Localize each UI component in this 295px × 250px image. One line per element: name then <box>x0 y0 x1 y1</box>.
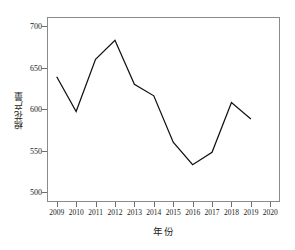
y-axis-tick-mark <box>42 26 47 27</box>
x-axis-tick-mark <box>270 202 271 207</box>
y-axis-tick-mark <box>42 192 47 193</box>
cotton-yield-line-chart: 棉花产量 年份 50055060065070020092010201120122… <box>0 0 295 250</box>
y-axis-tick-label: 650 <box>30 64 42 72</box>
x-axis-tick-label: 2009 <box>49 209 64 217</box>
x-axis-tick-label: 2020 <box>263 209 278 217</box>
x-axis-tick-label: 2010 <box>69 209 84 217</box>
x-axis-tick-mark <box>115 202 116 207</box>
x-axis-tick-mark <box>134 202 135 207</box>
x-axis-tick-label: 2017 <box>205 209 220 217</box>
x-axis-tick-mark <box>231 202 232 207</box>
y-axis-tick-mark <box>42 68 47 69</box>
x-axis-title: 年份 <box>47 224 280 238</box>
x-axis-tick-mark <box>173 202 174 207</box>
y-axis-tick-label: 700 <box>30 23 42 31</box>
x-axis-tick-label: 2015 <box>166 209 181 217</box>
x-axis-tick-mark <box>76 202 77 207</box>
x-axis-tick-label: 2013 <box>127 209 142 217</box>
y-axis-tick-label: 500 <box>30 189 42 197</box>
x-axis-tick-label: 2019 <box>243 209 258 217</box>
y-axis-tick-mark <box>42 151 47 152</box>
plot-area <box>47 17 280 202</box>
data-series-line <box>57 40 251 164</box>
x-axis-tick-mark <box>193 202 194 207</box>
x-axis-tick-mark <box>154 202 155 207</box>
x-axis-tick-label: 2018 <box>224 209 239 217</box>
x-axis-tick-mark <box>212 202 213 207</box>
x-axis-tick-mark <box>96 202 97 207</box>
x-axis-tick-label: 2012 <box>107 209 122 217</box>
x-axis-tick-label: 2016 <box>185 209 200 217</box>
x-axis-tick-mark <box>251 202 252 207</box>
x-axis-tick-label: 2011 <box>88 209 103 217</box>
y-axis-tick-mark <box>42 109 47 110</box>
y-axis-tick-label: 600 <box>30 106 42 114</box>
y-axis-tick-label: 550 <box>30 147 42 155</box>
y-axis-title: 棉花产量 <box>9 0 25 219</box>
x-axis-tick-mark <box>57 202 58 207</box>
y-axis-title-label: 棉花产量 <box>11 91 24 129</box>
x-axis-tick-label: 2014 <box>146 209 161 217</box>
